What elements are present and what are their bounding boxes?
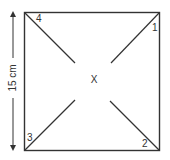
diagonal-cut-4: [25, 13, 75, 63]
corner-label-1: 1: [152, 22, 158, 33]
square-fold-diagram: 15 cm 4 1 3 2 X: [0, 0, 170, 160]
diagonal-cut-1: [111, 13, 159, 63]
diagonal-cut-2: [110, 101, 159, 150]
center-label: X: [91, 74, 98, 85]
dimension-label: 15 cm: [7, 64, 18, 91]
corner-label-3: 3: [27, 132, 33, 143]
corner-label-2: 2: [142, 138, 148, 149]
corner-label-4: 4: [36, 13, 42, 24]
